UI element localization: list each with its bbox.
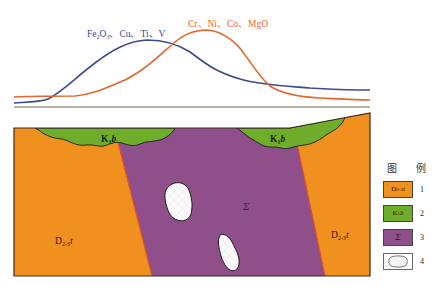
- legend-item-1: D2-3t 1: [383, 179, 438, 199]
- curve-cr-ni-co-mgo: [14, 30, 370, 100]
- curve-label-cr-ni-co-mgo: Cr、Ni、Co、MgO: [188, 19, 268, 29]
- legend-swatch-lens: [383, 253, 413, 270]
- legend-item-3: Σ 3: [383, 227, 438, 247]
- legend-swatch-sigma: Σ: [383, 229, 413, 246]
- cross-section: K1b K1b D2-3t D2-3t Σ: [14, 110, 372, 280]
- lens-icon: [387, 255, 409, 268]
- curve-fe-cu-ti-v: [14, 40, 370, 103]
- legend-number: 3: [420, 233, 424, 242]
- geological-section-diagram: Fe2O3、Cu、Ti、V Cr、Ni、Co、MgO K: [0, 0, 438, 287]
- geochemical-profile: Fe2O3、Cu、Ti、V Cr、Ni、Co、MgO: [14, 19, 370, 107]
- legend-swatch-k1b: K1b: [383, 205, 413, 222]
- legend-item-4: 4: [383, 251, 438, 271]
- legend-number: 2: [420, 209, 424, 218]
- label-intrusion: Σ: [242, 200, 250, 212]
- legend-title: 图 例: [387, 160, 438, 175]
- legend: 图 例 D2-3t 1 K1b 2 Σ 3 4: [383, 160, 438, 275]
- legend-item-2: K1b 2: [383, 203, 438, 223]
- legend-number: 4: [420, 257, 424, 266]
- curve-label-fe-cu-ti-v: Fe2O3、Cu、Ti、V: [87, 29, 166, 40]
- legend-number: 1: [420, 185, 424, 194]
- legend-swatch-d23t: D2-3t: [383, 181, 413, 198]
